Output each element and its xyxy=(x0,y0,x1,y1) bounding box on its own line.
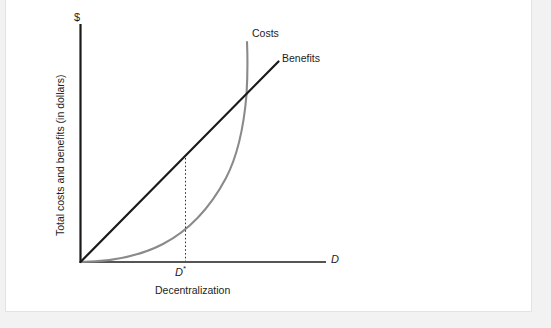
dstar-superscript: * xyxy=(183,264,186,273)
costs-curve xyxy=(81,42,248,262)
costs-series-label: Costs xyxy=(252,28,279,39)
x-axis-title: Decentralization xyxy=(155,285,230,296)
page-root: $ D Total costs and benefits (in dollars… xyxy=(0,0,551,328)
y-axis-title: Total costs and benefits (in dollars) xyxy=(55,55,66,255)
chart-canvas xyxy=(0,0,551,328)
dstar-annotation-label: D* xyxy=(175,265,186,278)
benefits-series-label: Benefits xyxy=(282,53,320,64)
y-axis-symbol-label: $ xyxy=(74,12,80,23)
dstar-base: D xyxy=(175,266,183,278)
benefits-line xyxy=(81,62,279,263)
x-axis-symbol-label: D xyxy=(331,254,339,265)
